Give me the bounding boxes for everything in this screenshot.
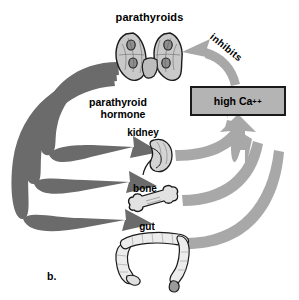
calcium-rise-arrows: [175, 109, 284, 249]
high-calcium-box-label: high Ca++: [192, 88, 284, 114]
label-parathyroid-hormone: parathyroid hormone: [66, 96, 170, 121]
high-calcium-box: high Ca++: [190, 86, 286, 116]
parathyroid-calcium-feedback-figure: parathyroids parathyroid hormone kidney …: [0, 0, 299, 300]
label-kidney: kidney: [112, 127, 174, 139]
label-parathyroid-hormone-line2: hormone: [66, 108, 170, 120]
parathyroids-illustration: [116, 33, 182, 80]
high-calcium-superscript: ++: [252, 97, 262, 106]
label-gut: gut: [116, 221, 178, 233]
diagram-canvas: [0, 0, 299, 300]
gut-illustration: [116, 232, 189, 292]
label-bone: bone: [114, 183, 176, 195]
high-calcium-text: high Ca: [214, 95, 253, 107]
figure-letter-label: b.: [47, 270, 56, 282]
label-parathyroid-hormone-line1: parathyroid: [89, 96, 147, 108]
pth-arrow-to-kidney-tail: [49, 136, 160, 162]
label-parathyroids: parathyroids: [0, 11, 299, 24]
inhibits-arrow-head: [182, 39, 211, 58]
